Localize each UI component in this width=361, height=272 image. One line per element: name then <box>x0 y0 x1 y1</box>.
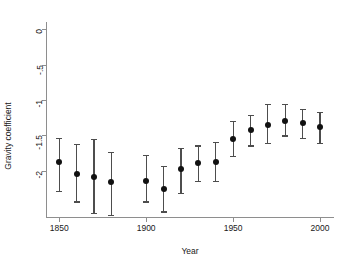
y-axis-tick-label: -.5 <box>36 65 45 75</box>
error-bar-lower-cap <box>195 181 201 182</box>
plot-area: 0-.5-1-1.5-2 1850190019502000 <box>46 22 334 218</box>
error-bar-lower-cap <box>213 181 219 182</box>
error-bar-upper-cap <box>230 121 236 122</box>
x-axis-tick-label: 1950 <box>224 224 243 233</box>
data-point-marker <box>317 124 323 130</box>
y-axis-tick-label: 0 <box>36 29 45 34</box>
error-bar-lower-cap <box>300 138 306 139</box>
error-bar-upper-cap <box>74 144 80 145</box>
data-point-marker <box>91 174 97 180</box>
error-bar-upper-cap <box>178 148 184 149</box>
error-bar-upper-cap <box>300 109 306 110</box>
error-bar-upper-cap <box>282 104 288 105</box>
error-bar-upper-cap <box>143 155 149 156</box>
data-point-marker <box>213 159 219 165</box>
error-bar-upper-cap <box>161 166 167 167</box>
error-bar-upper-cap <box>56 138 62 139</box>
error-bar-lower-cap <box>248 145 254 146</box>
data-point-marker <box>230 136 236 142</box>
x-axis-title: Year <box>46 246 334 256</box>
data-point-marker <box>248 127 254 133</box>
error-bar-lower-cap <box>230 156 236 157</box>
data-point-marker <box>282 118 288 124</box>
x-axis-tick <box>146 217 147 222</box>
data-point-marker <box>56 159 62 165</box>
x-axis-tick-label: 1900 <box>137 224 156 233</box>
error-bar-upper-cap <box>317 112 323 113</box>
error-bar-lower-cap <box>317 143 323 144</box>
error-bar-upper-cap <box>195 145 201 146</box>
error-bar-lower-cap <box>161 211 167 212</box>
x-axis-tick <box>233 217 234 222</box>
x-axis-tick-label: 2000 <box>311 224 330 233</box>
error-bar-upper-cap <box>265 104 271 105</box>
error-bar-lower-cap <box>56 191 62 192</box>
data-point-marker <box>143 178 149 184</box>
error-bar-upper-cap <box>108 152 114 153</box>
data-point-marker <box>74 171 80 177</box>
x-axis-tick-label: 1850 <box>50 224 69 233</box>
error-bar-upper-cap <box>213 142 219 143</box>
error-bar-lower-cap <box>282 135 288 136</box>
data-point-marker <box>195 160 201 166</box>
x-axis-tick <box>59 217 60 222</box>
data-point-marker <box>161 186 167 192</box>
chart-figure: Gravity coefficient 0-.5-1-1.5-2 1850190… <box>0 0 361 272</box>
error-bar-lower-cap <box>265 143 271 144</box>
error-bar-lower-cap <box>143 201 149 202</box>
error-bar-lower-cap <box>74 201 80 202</box>
error-bar-lower-cap <box>178 193 184 194</box>
data-point-marker <box>178 166 184 172</box>
error-bar-upper-cap <box>248 115 254 116</box>
data-point-marker <box>265 122 271 128</box>
y-axis-title: Gravity coefficient <box>3 102 13 169</box>
data-point-marker <box>108 179 114 185</box>
y-axis-tick-label: -1 <box>36 100 45 108</box>
error-bar-lower-cap <box>108 215 114 216</box>
data-point-marker <box>300 120 306 126</box>
error-bar-lower-cap <box>91 213 97 214</box>
y-axis-tick-label: -2 <box>36 171 45 179</box>
y-axis-tick-label: -1.5 <box>36 135 45 150</box>
x-axis-tick <box>320 217 321 222</box>
error-bar-upper-cap <box>91 139 97 140</box>
